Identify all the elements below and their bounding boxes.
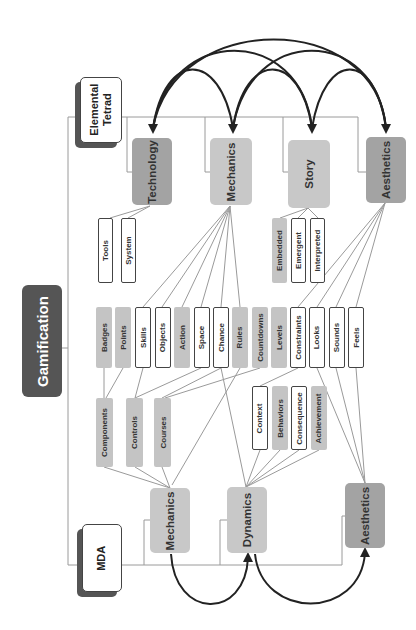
item-label: Skills bbox=[139, 327, 148, 348]
item-feels: Feels bbox=[348, 307, 364, 368]
mda-mechanics-label: Mechanics bbox=[164, 491, 176, 550]
mda-aesthetics-label: Aesthetics bbox=[359, 486, 371, 544]
item-label: Tools bbox=[101, 240, 110, 261]
elemental-tetrad-card: Elemental Tetrad bbox=[80, 77, 122, 143]
tetrad-mechanics-label: Mechanics bbox=[225, 142, 237, 201]
item-label: Courses bbox=[158, 416, 167, 448]
item-label: System bbox=[124, 236, 133, 264]
item-label: Space bbox=[198, 326, 207, 350]
item-levels: Levels bbox=[271, 307, 287, 368]
item-label: Components bbox=[100, 408, 109, 457]
gamification-diagram: Gamification Elemental Tetrad MDA Techno… bbox=[0, 0, 416, 630]
item-label: Looks bbox=[313, 326, 322, 350]
item-action: Action bbox=[174, 307, 190, 368]
item-label: Feels bbox=[352, 327, 361, 347]
tetrad-story-node: Story bbox=[288, 140, 330, 208]
item-objects: Objects bbox=[155, 307, 171, 368]
tetrad-aesthetics-node: Aesthetics bbox=[366, 137, 406, 203]
item-label: Interpreted bbox=[313, 230, 322, 272]
root-title: Gamification bbox=[34, 296, 51, 387]
item-skills: Skills bbox=[135, 307, 151, 368]
item-label: Countdowns bbox=[256, 313, 265, 361]
mda-label: MDA bbox=[96, 545, 109, 570]
tetrad-aesthetics-label: Aesthetics bbox=[380, 141, 392, 199]
dynamics-label: Dynamics bbox=[241, 493, 253, 547]
root-gamification-node: Gamification bbox=[22, 285, 62, 397]
item-label: Context bbox=[256, 403, 265, 433]
item-sounds: Sounds bbox=[329, 307, 345, 368]
mda-aesthetics-node: Aesthetics bbox=[345, 483, 385, 548]
item-context: Context bbox=[252, 386, 268, 450]
item-label: Behaviors bbox=[276, 399, 285, 438]
story-label: Story bbox=[303, 159, 315, 188]
item-label: Objects bbox=[159, 323, 168, 352]
mda-mechanics-node: Mechanics bbox=[150, 488, 190, 553]
item-tools: Tools bbox=[98, 218, 113, 283]
item-label: Consequence bbox=[295, 392, 304, 444]
tetrad-mechanics-node: Mechanics bbox=[210, 138, 252, 205]
item-label: Chance bbox=[217, 323, 226, 352]
item-label: Points bbox=[119, 325, 128, 349]
item-label: Constraints bbox=[294, 315, 303, 359]
item-looks: Looks bbox=[309, 307, 325, 368]
item-courses: Courses bbox=[154, 398, 171, 467]
item-interpreted: Interpreted bbox=[310, 218, 325, 283]
elemental-tetrad-label: Elemental Tetrad bbox=[88, 84, 113, 136]
item-label: Achievement bbox=[315, 393, 324, 443]
item-space: Space bbox=[194, 307, 210, 368]
item-label: Rules bbox=[236, 327, 245, 349]
item-label: Emergent bbox=[294, 232, 303, 269]
item-rules: Rules bbox=[232, 307, 248, 368]
item-constraints: Constraints bbox=[290, 307, 306, 368]
item-label: Badges bbox=[100, 323, 109, 352]
item-controls: Controls bbox=[126, 398, 143, 467]
item-countdowns: Countdowns bbox=[252, 307, 268, 368]
item-system: System bbox=[121, 218, 136, 283]
mda-card: MDA bbox=[82, 524, 122, 592]
item-consequence: Consequence bbox=[291, 386, 307, 450]
item-label: Controls bbox=[130, 416, 139, 449]
item-behaviors: Behaviors bbox=[272, 386, 288, 450]
item-label: Embedded bbox=[275, 230, 284, 271]
item-chance: Chance bbox=[213, 307, 229, 368]
item-emergent: Emergent bbox=[291, 218, 306, 283]
technology-label: Technology bbox=[146, 140, 158, 204]
mda-dynamics-node: Dynamics bbox=[227, 487, 267, 553]
item-achievement: Achievement bbox=[311, 386, 327, 450]
item-label: Levels bbox=[275, 325, 284, 350]
item-label: Sounds bbox=[333, 323, 342, 352]
item-embedded: Embedded bbox=[272, 218, 287, 283]
tetrad-technology-node: Technology bbox=[132, 138, 172, 205]
item-label: Action bbox=[178, 325, 187, 350]
item-badges: Badges bbox=[96, 307, 112, 368]
item-components: Components bbox=[96, 398, 113, 467]
item-points: Points bbox=[115, 307, 131, 368]
